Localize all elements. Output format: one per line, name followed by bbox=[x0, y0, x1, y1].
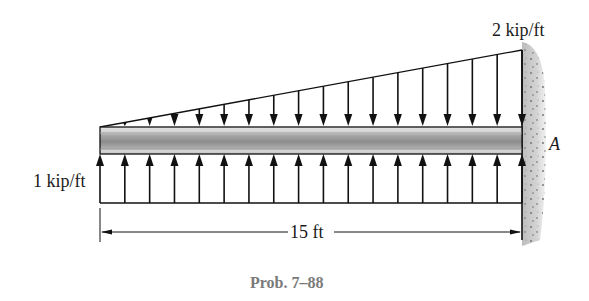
up-arrow-head bbox=[295, 154, 303, 166]
down-arrow-head bbox=[220, 114, 228, 126]
up-arrow-head bbox=[121, 154, 129, 166]
up-arrow-head bbox=[146, 154, 154, 166]
down-arrows bbox=[123, 50, 526, 126]
down-arrow-head bbox=[394, 114, 402, 126]
triangular-load bbox=[100, 50, 526, 127]
support-label-a: A bbox=[548, 134, 561, 154]
beam-diagram: 2 kip/ft 1 kip/ft A 15 ft Prob. 7–88 bbox=[0, 0, 589, 301]
down-arrow-head bbox=[419, 114, 427, 126]
up-arrow-head bbox=[220, 154, 228, 166]
top-load-label: 2 kip/ft bbox=[492, 20, 545, 40]
uniform-load bbox=[96, 154, 526, 203]
up-arrow-head bbox=[444, 154, 452, 166]
up-arrow-head bbox=[419, 154, 427, 166]
down-arrow-head bbox=[344, 114, 352, 126]
down-arrow-head bbox=[369, 114, 377, 126]
down-arrow-head bbox=[319, 114, 327, 126]
up-arrows bbox=[96, 154, 526, 203]
down-arrow-head bbox=[468, 114, 476, 126]
down-arrow-head bbox=[195, 114, 203, 126]
down-arrow-head bbox=[170, 114, 178, 126]
up-arrow-head bbox=[195, 154, 203, 166]
bottom-load-label: 1 kip/ft bbox=[33, 171, 86, 191]
down-arrow-head bbox=[444, 114, 452, 126]
up-arrow-head bbox=[96, 154, 104, 166]
down-arrow-head bbox=[295, 114, 303, 126]
up-arrow-head bbox=[468, 154, 476, 166]
figure-caption: Prob. 7–88 bbox=[250, 274, 323, 291]
up-arrow-head bbox=[493, 154, 501, 166]
up-arrow-head bbox=[394, 154, 402, 166]
up-arrow-head bbox=[245, 154, 253, 166]
beam bbox=[100, 127, 522, 154]
up-arrow-head bbox=[319, 154, 327, 166]
down-arrow-head bbox=[270, 114, 278, 126]
length-label: 15 ft bbox=[290, 222, 324, 242]
down-arrow-head bbox=[147, 118, 152, 126]
up-arrow-head bbox=[369, 154, 377, 166]
fixed-wall-support bbox=[522, 42, 546, 246]
down-arrow-head bbox=[245, 114, 253, 126]
down-arrow-head bbox=[123, 122, 127, 126]
down-arrow-head bbox=[493, 114, 501, 126]
up-arrow-head bbox=[270, 154, 278, 166]
up-arrow-head bbox=[170, 154, 178, 166]
up-arrow-head bbox=[344, 154, 352, 166]
